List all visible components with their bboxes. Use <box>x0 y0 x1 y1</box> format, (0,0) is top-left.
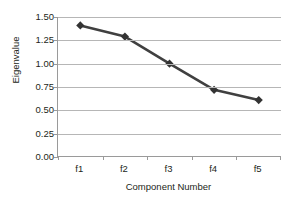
y-axis-tick-label: 0.75 <box>24 82 54 92</box>
x-axis-tickmark <box>192 156 193 160</box>
y-axis-tick-labels: 1.501.251.000.750.500.250.00 <box>24 0 54 205</box>
y-axis-tickmark <box>54 134 58 135</box>
x-axis-tickmark <box>236 156 237 160</box>
x-axis-tickmark <box>103 156 104 160</box>
gridline <box>58 17 281 18</box>
x-axis-tick-label: f4 <box>193 163 233 175</box>
y-axis-tick-label: 1.00 <box>24 59 54 69</box>
x-axis-tick-label: f3 <box>149 163 189 175</box>
data-point-marker <box>255 96 263 104</box>
x-axis-tick-label: f5 <box>238 163 278 175</box>
x-axis-tickmark <box>280 156 281 160</box>
y-axis-tick-label: 1.25 <box>24 35 54 45</box>
data-point-marker <box>76 21 84 29</box>
y-axis-tickmark <box>54 87 58 88</box>
x-axis-tickmark <box>58 156 59 160</box>
x-axis-tick-label: f2 <box>104 163 144 175</box>
y-axis-title: Eigenvalue <box>9 0 23 140</box>
y-axis-tickmark <box>54 17 58 18</box>
y-axis-tick-label: 0.50 <box>24 105 54 115</box>
y-axis-tick-label: 0.25 <box>24 129 54 139</box>
gridline <box>58 87 281 88</box>
x-axis-tickmark <box>147 156 148 160</box>
x-axis-title: Component Number <box>57 181 280 193</box>
y-axis-tickmark <box>54 40 58 41</box>
y-axis-tick-label: 0.00 <box>24 152 54 162</box>
scree-plot-chart: Eigenvalue 1.501.251.000.750.500.250.00 … <box>0 0 298 205</box>
y-axis-tickmark <box>54 110 58 111</box>
x-axis-tick-labels: f1f2f3f4f5 <box>57 163 280 177</box>
gridline <box>58 40 281 41</box>
plot-area <box>57 17 280 157</box>
gridline <box>58 110 281 111</box>
gridline <box>58 64 281 65</box>
y-axis-tickmark <box>54 64 58 65</box>
x-axis-tick-label: f1 <box>59 163 99 175</box>
y-axis-tick-label: 1.50 <box>24 12 54 22</box>
gridline <box>58 134 281 135</box>
